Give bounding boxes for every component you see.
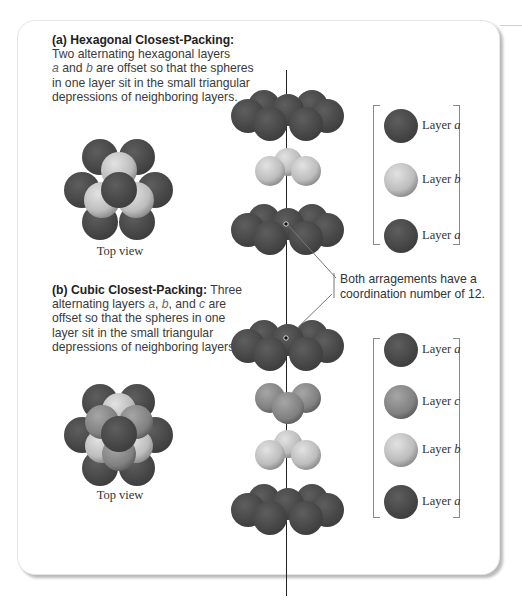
panel-b-heading: (b) Cubic Closest-Packing: [52,283,207,297]
ccp-layer-b [248,428,328,473]
ccp-legend-sphere-a [383,332,419,368]
ccp-top-view-diagram [60,380,180,490]
caption-line: offset so that the spheres in one [52,311,242,325]
ccp-legend-label-a2: Layer a [422,494,461,509]
var-a: a [148,297,155,311]
ccp-legend-label-c: Layer c [422,394,460,409]
ccp-layer-a-top [230,318,345,373]
caption-line: alternating layers a, b, and c are [52,297,242,311]
ccp-bracket-left [373,338,380,518]
caption-text: are [205,297,226,311]
label-text: Layer [422,442,454,456]
label-text: Layer [422,394,454,408]
label-text: Layer [422,342,454,356]
ccp-bracket-right [453,338,460,518]
caption-text: , [155,297,162,311]
coordination-callout: Both arragements have a coordination num… [340,272,485,301]
label-letter: b [454,442,460,456]
ccp-layer-c [248,378,328,428]
ccp-legend-label-b: Layer b [422,442,461,457]
panel-b-caption: (b) Cubic Closest-Packing: Three alterna… [52,283,242,354]
var-b: b [162,297,169,311]
label-text: Layer [422,494,454,508]
label-letter: a [454,494,460,508]
caption-text: , and [169,297,200,311]
caption-line: layer sit in the small triangular [52,326,242,340]
ccp-legend-label-a: Layer a [422,342,461,357]
ccp-legend-sphere-c [383,384,419,420]
ccp-legend-sphere-a2 [383,484,419,520]
label-letter: c [454,394,460,408]
callout-line: coordination number of 12. [340,287,485,302]
caption-line: depressions of neighboring layers. [52,340,242,354]
caption-text: Three [207,283,242,297]
caption-text: alternating layers [52,297,148,311]
ccp-legend-sphere-b [383,432,419,468]
label-letter: a [454,342,460,356]
callout-line: Both arragements have a [340,272,485,287]
ccp-top-view-label: Top view [70,488,170,503]
ccp-layer-a-bottom [230,482,345,537]
